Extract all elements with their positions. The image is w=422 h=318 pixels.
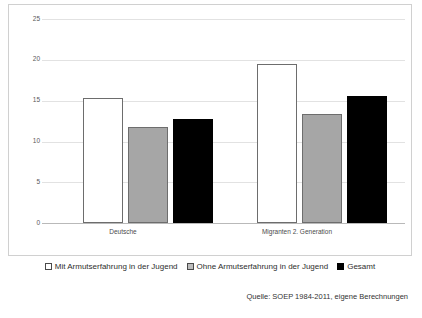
legend-swatch-gray-icon [187,263,194,270]
bar-migranten-gesamt[interactable] [347,96,387,223]
chart-title-cropped [0,0,422,3]
bar-deutsche-mit-armutserfahrung[interactable] [83,98,123,223]
legend-item-gesamt[interactable]: Gesamt [337,262,375,271]
bar-group-deutsche [65,19,225,223]
chart-legend: Mit Armutserfahrung in der Jugend Ohne A… [8,262,412,271]
x-tick-migranten: Migranten 2. Generation [217,229,377,236]
plot-area: 25 20 15 10 5 0 [29,19,405,243]
legend-label-ohne-armutserfahrung: Ohne Armutserfahrung in der Jugend [197,262,329,271]
y-tick-0: 0 [29,220,40,227]
legend-swatch-white-icon [45,263,52,270]
bar-deutsche-ohne-armutserfahrung[interactable] [128,127,168,223]
bar-migranten-ohne-armutserfahrung[interactable] [302,114,342,223]
y-tick-10: 10 [29,138,40,145]
y-tick-25: 25 [29,16,40,23]
y-tick-5: 5 [29,179,40,186]
y-tick-15: 15 [29,97,40,104]
y-tick-20: 20 [29,56,40,63]
chart-source-note: Quelle: SOEP 1984-2011, eigene Berechnun… [246,292,408,301]
legend-item-ohne-armutserfahrung[interactable]: Ohne Armutserfahrung in der Jugend [187,262,329,271]
legend-label-gesamt: Gesamt [347,262,375,271]
bar-group-migranten [239,19,399,223]
legend-item-mit-armutserfahrung[interactable]: Mit Armutserfahrung in der Jugend [45,262,178,271]
bar-deutsche-gesamt[interactable] [173,119,213,223]
legend-label-mit-armutserfahrung: Mit Armutserfahrung in der Jugend [55,262,178,271]
chart-frame: 25 20 15 10 5 0 [8,4,412,256]
x-tick-deutsche: Deutsche [43,229,203,236]
legend-swatch-black-icon [337,263,344,270]
chart-page: 25 20 15 10 5 0 [0,0,422,318]
x-axis-line [42,223,405,224]
bar-migranten-mit-armutserfahrung[interactable] [257,64,297,223]
bars-container [43,19,405,223]
